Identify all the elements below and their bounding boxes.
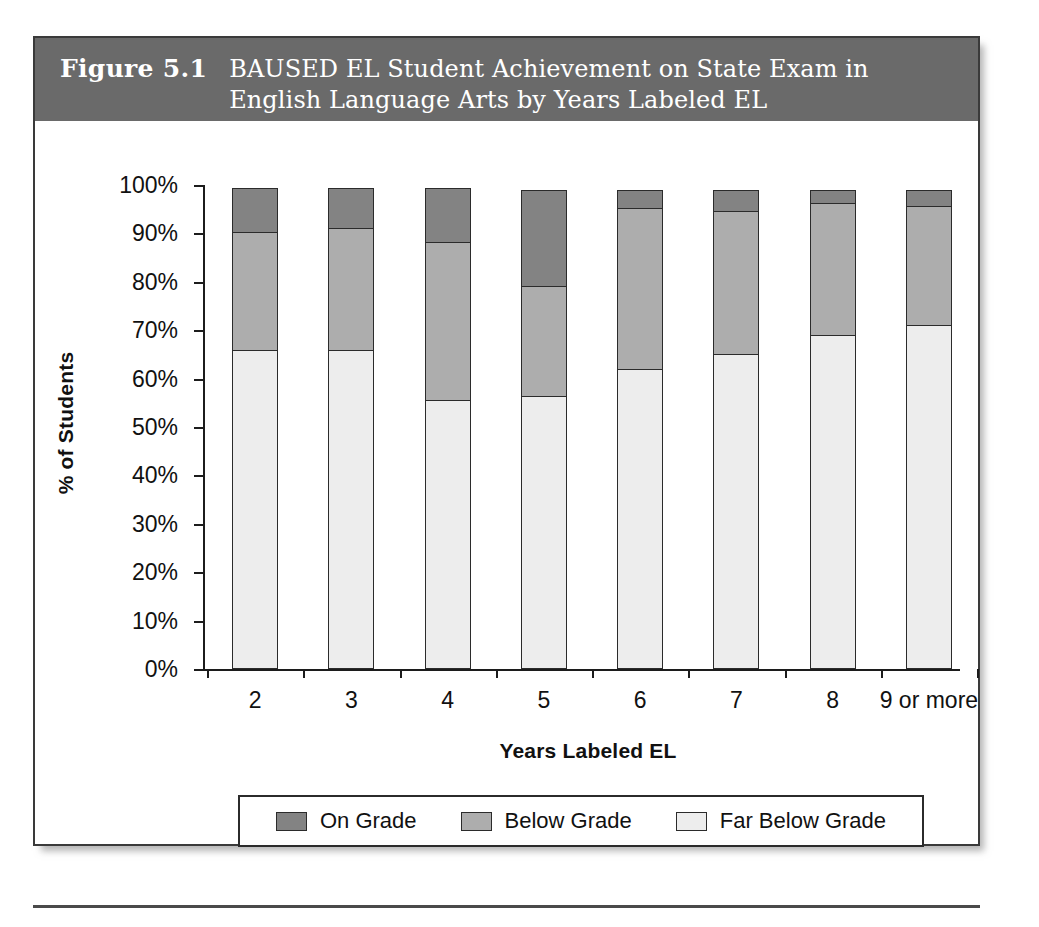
y-axis-tick-label: 0% bbox=[145, 656, 178, 683]
x-axis-tick bbox=[881, 669, 883, 678]
x-axis-tick bbox=[303, 669, 305, 678]
x-axis-tick bbox=[592, 669, 594, 678]
y-axis-tick: 80% bbox=[194, 282, 203, 284]
bar-segment-below-grade[interactable] bbox=[521, 286, 567, 397]
y-axis-tick-label: 20% bbox=[132, 559, 178, 586]
bar-stack[interactable] bbox=[906, 192, 952, 669]
bar-segment-far-below-grade[interactable] bbox=[810, 335, 856, 669]
bar-segment-below-grade[interactable] bbox=[810, 203, 856, 336]
x-axis-tick bbox=[977, 669, 979, 678]
y-axis-tick-label: 40% bbox=[132, 462, 178, 489]
x-axis-tick bbox=[400, 669, 402, 678]
bar-segment-below-grade[interactable] bbox=[425, 242, 471, 402]
bar-segment-far-below-grade[interactable] bbox=[713, 354, 759, 669]
bar-segment-below-grade[interactable] bbox=[713, 211, 759, 356]
x-axis-tick-label: 6 bbox=[634, 687, 647, 714]
bar-segment-on-grade[interactable] bbox=[425, 188, 471, 244]
y-axis-tick: 50% bbox=[194, 427, 203, 429]
x-axis-tick-label: 8 bbox=[826, 687, 839, 714]
x-axis-tick-label: 2 bbox=[249, 687, 262, 714]
bar-segment-below-grade[interactable] bbox=[232, 232, 278, 351]
legend-label: On Grade bbox=[320, 808, 417, 834]
y-axis-tick-label: 90% bbox=[132, 220, 178, 247]
bar-stack[interactable] bbox=[810, 192, 856, 669]
y-axis-title: % of Students bbox=[54, 308, 78, 538]
x-axis-title: Years Labeled EL bbox=[203, 739, 973, 763]
bar-stack[interactable] bbox=[328, 190, 374, 669]
y-axis-tick-label: 70% bbox=[132, 317, 178, 344]
x-axis-tick-label: 3 bbox=[345, 687, 358, 714]
bar-stack[interactable] bbox=[713, 192, 759, 669]
bar-segment-far-below-grade[interactable] bbox=[906, 325, 952, 669]
y-axis-tick: 90% bbox=[194, 233, 203, 235]
bar-segment-below-grade[interactable] bbox=[906, 206, 952, 327]
x-axis-tick-label: 4 bbox=[441, 687, 454, 714]
legend-swatch-icon bbox=[276, 812, 307, 831]
x-axis-tick bbox=[207, 669, 209, 678]
bar-segment-on-grade[interactable] bbox=[521, 190, 567, 287]
bar-segment-on-grade[interactable] bbox=[713, 190, 759, 212]
legend-label: Far Below Grade bbox=[720, 808, 886, 834]
chart-legend: On GradeBelow GradeFar Below Grade bbox=[238, 795, 924, 847]
y-axis-tick-label: 10% bbox=[132, 607, 178, 634]
legend-label: Below Grade bbox=[505, 808, 632, 834]
x-axis-tick-label: 5 bbox=[537, 687, 550, 714]
y-axis-tick-label: 100% bbox=[119, 172, 178, 199]
bar-segment-far-below-grade[interactable] bbox=[328, 350, 374, 669]
x-axis-tick bbox=[688, 669, 690, 678]
figure-number: Figure 5.1 bbox=[35, 38, 207, 83]
chart-axes: 100%90%80%70%60%50%40%30%20%10%0% 234567… bbox=[203, 185, 973, 671]
y-axis-tick: 40% bbox=[194, 475, 203, 477]
y-axis-tick: 70% bbox=[194, 330, 203, 332]
figure-title: BAUSED EL Student Achievement on State E… bbox=[207, 38, 978, 115]
legend-item[interactable]: Far Below Grade bbox=[676, 808, 886, 834]
bar-segment-on-grade[interactable] bbox=[906, 190, 952, 207]
figure-container: Figure 5.1 BAUSED EL Student Achievement… bbox=[33, 36, 980, 846]
legend-swatch-icon bbox=[676, 812, 707, 831]
y-axis-tick-label: 60% bbox=[132, 365, 178, 392]
x-axis-tick-label: 9 or more bbox=[880, 687, 978, 714]
bar-segment-on-grade[interactable] bbox=[328, 188, 374, 229]
y-axis-tick: 20% bbox=[194, 572, 203, 574]
x-axis-tick-label: 7 bbox=[730, 687, 743, 714]
y-axis-tick: 100% bbox=[194, 185, 203, 187]
bar-stack[interactable] bbox=[521, 192, 567, 669]
bar-group bbox=[203, 185, 973, 671]
bar-segment-below-grade[interactable] bbox=[617, 208, 663, 370]
bar-segment-far-below-grade[interactable] bbox=[617, 369, 663, 669]
y-axis-tick-label: 80% bbox=[132, 268, 178, 295]
y-axis-tick-label: 30% bbox=[132, 510, 178, 537]
figure-title-banner: Figure 5.1 BAUSED EL Student Achievement… bbox=[35, 38, 978, 121]
bar-stack[interactable] bbox=[617, 192, 663, 669]
y-axis-tick: 0% bbox=[194, 669, 203, 671]
bar-segment-below-grade[interactable] bbox=[328, 228, 374, 351]
y-axis-tick-label: 50% bbox=[132, 414, 178, 441]
legend-item[interactable]: On Grade bbox=[276, 808, 417, 834]
bar-segment-on-grade[interactable] bbox=[617, 190, 663, 209]
y-axis-tick: 30% bbox=[194, 524, 203, 526]
bar-segment-on-grade[interactable] bbox=[232, 188, 278, 234]
bar-segment-far-below-grade[interactable] bbox=[232, 350, 278, 669]
bar-segment-far-below-grade[interactable] bbox=[425, 400, 471, 669]
bar-segment-far-below-grade[interactable] bbox=[521, 396, 567, 669]
bar-stack[interactable] bbox=[232, 190, 278, 669]
page-bottom-rule bbox=[33, 905, 980, 908]
y-axis-tick: 10% bbox=[194, 621, 203, 623]
chart-plot-area: % of Students 100%90%80%70%60%50%40%30%2… bbox=[35, 121, 978, 844]
legend-item[interactable]: Below Grade bbox=[461, 808, 632, 834]
y-axis-tick: 60% bbox=[194, 379, 203, 381]
legend-swatch-icon bbox=[461, 812, 492, 831]
bar-stack[interactable] bbox=[425, 190, 471, 669]
x-axis-tick bbox=[496, 669, 498, 678]
x-axis-tick bbox=[785, 669, 787, 678]
